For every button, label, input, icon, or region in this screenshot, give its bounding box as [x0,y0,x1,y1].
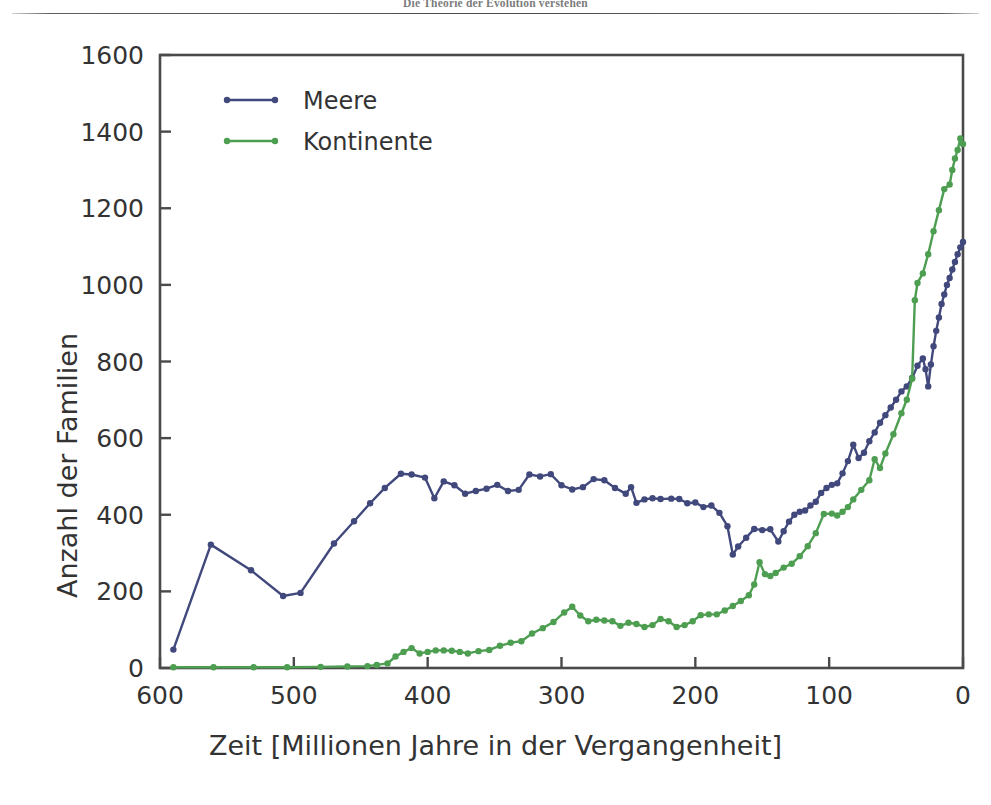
series-data-point [834,512,840,518]
series-data-point [382,485,388,491]
series-data-point [722,607,728,613]
series-data-point [850,496,856,502]
series-data-point [928,361,934,367]
series-data-point [673,624,679,630]
series-data-point [912,297,918,303]
series-data-point [601,617,607,623]
series-data-point [633,500,639,506]
series-data-point [441,478,447,484]
series-data-point [802,507,808,513]
legend-swatch-marker [272,97,278,103]
series-data-point [457,649,463,655]
series-data-point [946,275,952,281]
series-data-point [473,488,479,494]
series-data-point [297,590,303,596]
series-data-point [708,502,714,508]
series-data-point [960,239,966,245]
series-data-point [248,567,254,573]
series-data-point [772,570,778,576]
series-data-point [839,470,845,476]
series-data-point [441,647,447,653]
series-data-point [692,499,698,505]
series-data-point [649,622,655,628]
series-data-point [331,540,337,546]
y-axis-tick-label: 1400 [80,118,144,147]
series-data-point [882,412,888,418]
series-data-point [877,465,883,471]
series-data-point [716,510,722,516]
series-data-point [540,625,546,631]
series-data-point [909,376,915,382]
series-data-point [735,543,741,549]
series-data-point [486,647,492,653]
x-axis-tick-label: 400 [404,681,452,710]
series-data-point [497,643,503,649]
series-data-point [888,404,894,410]
series-data-point [706,611,712,617]
series-data-point [821,511,827,517]
series-data-point [914,363,920,369]
series-data-point [433,647,439,653]
series-data-point [949,266,955,272]
series-data-point [738,598,744,604]
series-data-point [657,496,663,502]
series-data-point [882,450,888,456]
series-data-point [858,487,864,493]
series-data-point [449,648,455,654]
series-data-point [649,495,655,501]
series-data-point [767,573,773,579]
series-data-point [807,502,813,508]
y-axis-tick-label: 1200 [80,194,144,223]
series-data-point [941,291,947,297]
chart-plot-area: 0200400600800100012001400160060050040030… [0,18,991,718]
series-data-point [938,301,944,307]
series-data-point [922,366,928,372]
chart-series-meere [170,239,966,653]
series-data-point [697,612,703,618]
series-data-point [813,530,819,536]
series-data-point [400,649,406,655]
series-data-point [877,420,883,426]
series-data-point [577,612,583,618]
series-data-point [590,476,596,482]
series-data-point [280,593,286,599]
y-axis-tick-label: 200 [96,577,144,606]
series-data-point [392,653,398,659]
legend-swatch-marker [224,97,230,103]
series-data-point [751,526,757,532]
chart-legend: MeereKontinente [224,87,433,156]
series-data-point [569,486,575,492]
legend-item-label: Kontinente [303,128,433,156]
series-data-point [871,429,877,435]
series-data-point [657,616,663,622]
x-axis-title: Zeit [Millionen Jahre in der Vergangenhe… [0,730,991,761]
series-data-point [780,528,786,534]
series-data-point [952,259,958,265]
series-data-point [775,538,781,544]
series-data-point [791,512,797,518]
y-axis-tick-label: 800 [96,348,144,377]
series-data-point [633,621,639,627]
series-data-point [628,484,634,490]
series-data-point [797,508,803,514]
series-data-point [593,617,599,623]
series-data-point [818,490,824,496]
figure-page: Die Theorie der Evolution verstehen 0200… [0,0,991,805]
series-data-point [351,518,357,524]
series-line [173,242,963,650]
series-data-point [936,207,942,213]
series-data-point [625,620,631,626]
running-head: Die Theorie der Evolution verstehen [0,0,991,10]
series-data-point [529,630,535,636]
series-data-point [170,664,176,670]
y-axis-title: Anzahl der Familien [52,333,83,598]
series-data-point [805,543,811,549]
series-data-point [507,640,513,646]
series-data-point [954,251,960,257]
series-data-point [317,664,323,670]
series-line [173,139,963,668]
legend-swatch-marker [224,138,230,144]
series-data-point [767,526,773,532]
series-data-point [759,527,765,533]
series-data-point [944,282,950,288]
